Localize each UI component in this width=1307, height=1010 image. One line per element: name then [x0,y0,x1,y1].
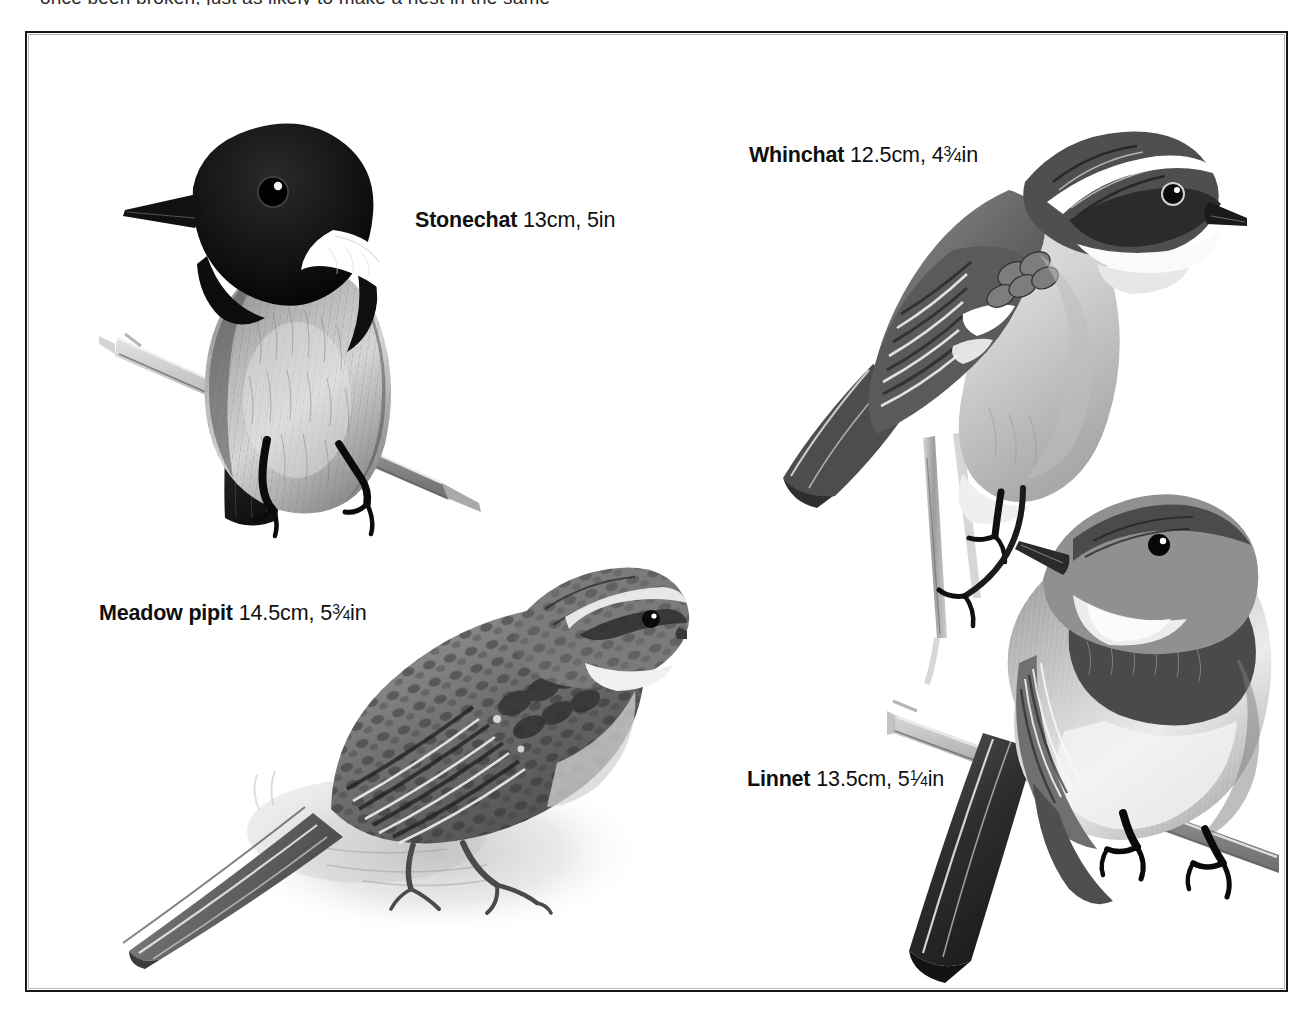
species-size-stonechat: 13cm, 5in [517,208,615,232]
illustration-meadow-pipit [117,513,687,973]
plate-page: once been broken, just as likely to make… [0,0,1307,1010]
species-size-linnet: 13.5cm, 5 [810,767,909,791]
fraction-numerator-whinchat: 3 [944,143,951,159]
fraction-meadow-pipit: 3⁄4 [332,602,350,624]
fraction-denominator-linnet: 4 [920,773,927,789]
species-unit-linnet: in [928,767,945,791]
fraction-whinchat: 3⁄4 [944,144,962,166]
species-size-meadow-pipit: 14.5cm, 5 [233,601,332,625]
label-linnet: Linnet 13.5cm, 51⁄4in [747,769,944,791]
species-unit-meadow-pipit: in [350,601,367,625]
cut-off-running-text: once been broken, just as likely to make… [40,0,680,5]
species-name-whinchat: Whinchat [749,143,844,167]
label-meadow-pipit: Meadow pipit 14.5cm, 53⁄4in [99,603,367,625]
species-unit-whinchat: in [961,143,978,167]
species-name-meadow-pipit: Meadow pipit [99,601,233,625]
label-stonechat: Stonechat 13cm, 5in [415,210,615,232]
illustration-stonechat [97,88,497,528]
illustration-linnet [887,483,1287,983]
species-size-whinchat: 12.5cm, 4 [844,143,943,167]
plate-border: Stonechat 13cm, 5in Whinchat 12.5cm, 43⁄… [25,31,1288,992]
fraction-numerator-linnet: 1 [910,767,917,783]
head-meadow-pipit [514,567,689,691]
species-name-linnet: Linnet [747,767,810,791]
label-whinchat: Whinchat 12.5cm, 43⁄4in [749,145,978,167]
fraction-linnet: 1⁄4 [910,768,928,790]
species-name-stonechat: Stonechat [415,208,517,232]
fraction-denominator-meadow-pipit: 4 [343,607,350,623]
fraction-numerator-meadow-pipit: 3 [332,601,339,617]
